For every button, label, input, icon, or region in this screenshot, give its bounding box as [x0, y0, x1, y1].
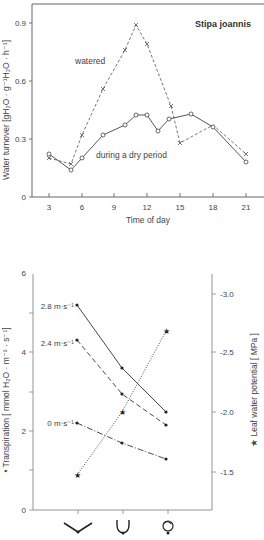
star-marker-icon: ★	[74, 471, 81, 480]
series-label-2-4: 2.4 m·s⁻¹	[41, 339, 75, 348]
series-0	[75, 421, 167, 460]
series-dry-period	[47, 112, 248, 172]
transpiration-axis-label: • Transpiration [ mmol H₂O · m⁻² · s⁻¹]	[1, 327, 11, 472]
top-xtick: 18	[209, 203, 218, 212]
leaf-folded-icon	[117, 520, 129, 535]
dry-period-label: during a dry period	[96, 150, 167, 160]
bottom-ytick-left: 0	[22, 506, 27, 515]
leaf-open-icon	[64, 523, 92, 534]
top-x-axis: 3 6 9 12 15 18 21 Time of day	[47, 193, 251, 225]
top-y-axis-label: Water turnover [gH₂O · g⁻¹H₂O · h⁻¹]	[1, 40, 11, 180]
bottom-left-y-axis: 0 2 4 6 • Transpiration [ mmol H₂O · m⁻²…	[1, 269, 33, 515]
top-xtick: 3	[47, 203, 52, 212]
star-marker-icon: ★	[119, 408, 126, 417]
series-leaf-water-potential: ★ ★ ★	[74, 327, 170, 480]
top-xtick: 9	[112, 203, 117, 212]
top-xtick: 6	[80, 203, 85, 212]
top-chart: 0 0.3 0.6 0.9 Water turnover [gH₂O · g⁻¹…	[1, 4, 264, 225]
series-label-2-8: 2.8 m·s⁻¹	[41, 302, 75, 311]
x-marker-icon	[47, 23, 248, 166]
bottom-ytick-right: -2.5	[220, 348, 234, 357]
bottom-chart: 0 2 4 6 • Transpiration [ mmol H₂O · m⁻²…	[1, 269, 259, 535]
bottom-right-y-axis: -3.0 -2.5 -2.0 -1.5 ★ Leaf water potenti…	[212, 290, 259, 477]
top-y-axis: 0 0.3 0.6 0.9 Water turnover [gH₂O · g⁻¹…	[1, 19, 32, 202]
watered-label: watered	[74, 56, 106, 66]
bottom-ytick-left: 6	[22, 269, 27, 278]
top-plot-frame	[32, 4, 264, 197]
figure: 0 0.3 0.6 0.9 Water turnover [gH₂O · g⁻¹…	[0, 0, 264, 540]
top-ytick: 0.3	[15, 135, 27, 144]
bottom-ytick-right: -1.5	[220, 468, 234, 477]
bottom-ytick-left: 4	[22, 348, 27, 357]
series-label-0: 0 m·s⁻¹	[47, 419, 74, 428]
top-xtick: 21	[242, 203, 251, 212]
top-xtick: 12	[143, 203, 152, 212]
chart-title: Stipa joannis	[195, 19, 251, 29]
bottom-ytick-right: -3.0	[220, 290, 234, 299]
top-xtick: 15	[176, 203, 185, 212]
leaf-rolled-icon	[163, 521, 173, 535]
leaf-water-potential-axis-label: ★ Leaf water potential [ MPa ]	[249, 333, 259, 447]
series-watered	[47, 23, 248, 166]
top-ytick: 0.9	[15, 19, 27, 28]
series-2-8	[75, 303, 167, 413]
top-ytick: 0.6	[15, 77, 27, 86]
top-x-axis-label: Time of day	[126, 215, 171, 225]
top-ytick: 0	[22, 193, 27, 202]
star-marker-icon: ★	[163, 327, 170, 336]
bottom-ytick-left: 2	[22, 427, 27, 436]
bottom-ytick-right: -2.0	[220, 408, 234, 417]
